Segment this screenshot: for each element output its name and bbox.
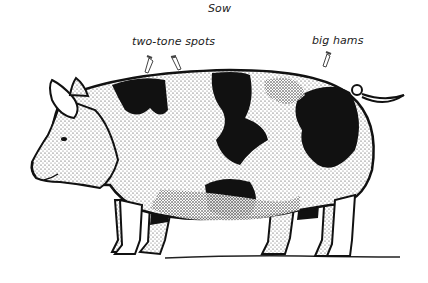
eye-icon: [61, 137, 67, 141]
ear-icon: [70, 78, 88, 96]
pointer-icon: [171, 56, 181, 70]
pointer-icon: [323, 52, 331, 67]
ground-line: [165, 256, 400, 258]
pig-illustration: [0, 0, 428, 283]
tail-icon: [352, 85, 404, 102]
pointer-icon: [145, 56, 153, 73]
